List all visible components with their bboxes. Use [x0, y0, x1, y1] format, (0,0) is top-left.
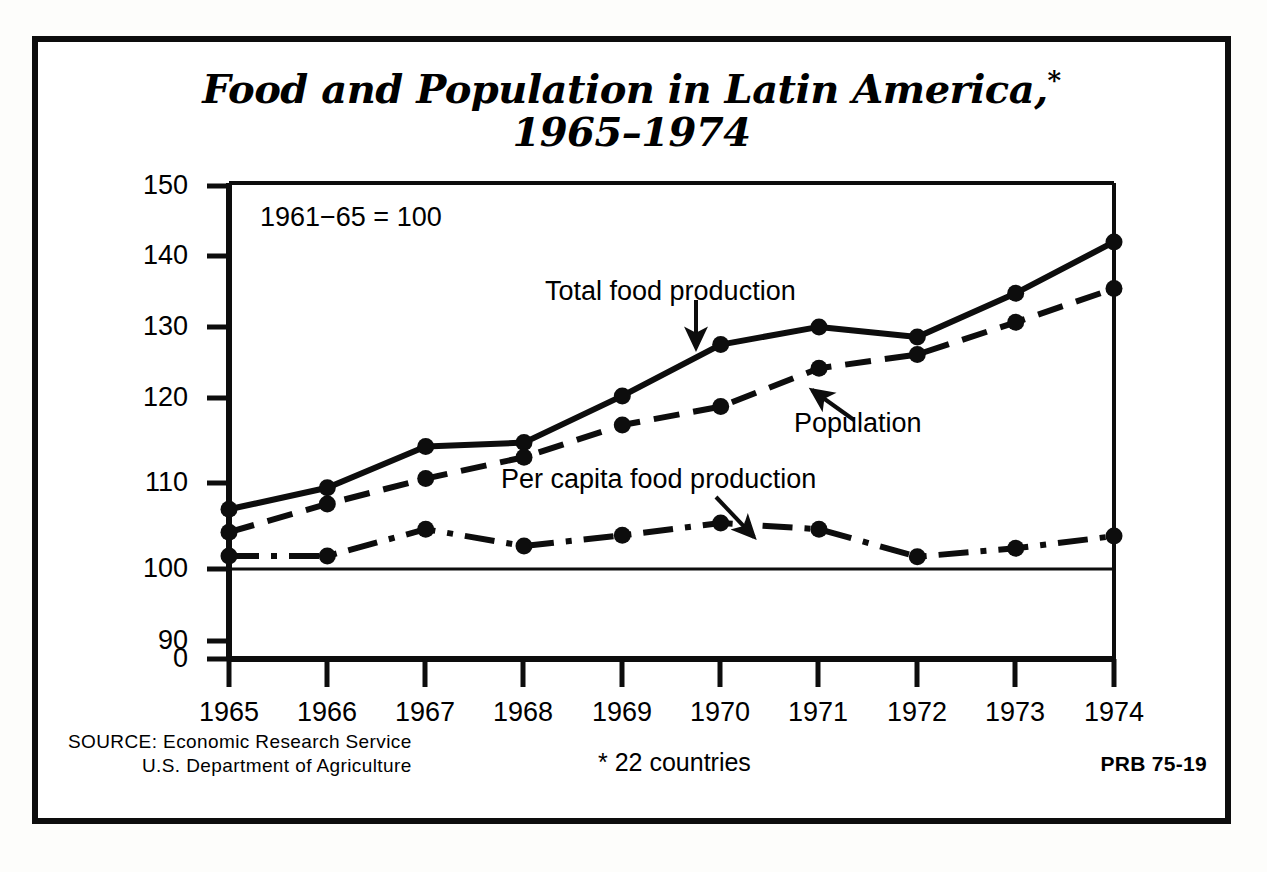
series-line	[229, 289, 1114, 533]
data-point-1967	[417, 470, 434, 487]
series-label-total-food-production: Total food production	[545, 276, 796, 307]
data-point-1972	[909, 328, 926, 345]
data-point-1970	[712, 398, 729, 415]
y-tick-label-130: 130	[100, 311, 188, 342]
y-tick-label-100: 100	[100, 553, 188, 584]
data-point-1971	[811, 318, 828, 335]
chart-frame-border: Food and Population in Latin America,* 1…	[32, 36, 1231, 824]
data-point-1965	[221, 548, 238, 565]
chart-footer: SOURCE: Economic Research Service U.S. D…	[38, 730, 1237, 800]
data-point-1974	[1106, 233, 1123, 250]
figure-canvas: Food and Population in Latin America,* 1…	[0, 0, 1267, 872]
data-point-1974	[1106, 528, 1123, 545]
y-tick-label-0: 0	[100, 643, 188, 674]
series-label-per-capita-food-production: Per capita food production	[501, 464, 816, 495]
series-population	[221, 280, 1123, 541]
data-point-1973	[1007, 540, 1024, 557]
data-point-1969	[614, 387, 631, 404]
data-point-1969	[614, 527, 631, 544]
y-tick-label-140: 140	[100, 240, 188, 271]
y-tick-label-110: 110	[100, 467, 188, 498]
publication-code: PRB 75-19	[1100, 752, 1207, 776]
source-line-2: U.S. Department of Agriculture	[68, 754, 412, 778]
source-line-1: Economic Research Service	[157, 731, 411, 752]
data-point-1966	[319, 495, 336, 512]
index-base-note: 1961−65 = 100	[260, 202, 442, 233]
data-point-1972	[909, 346, 926, 363]
data-point-1965	[221, 524, 238, 541]
footnote-countries: * 22 countries	[598, 748, 751, 777]
source-credit: SOURCE: Economic Research Service U.S. D…	[68, 730, 412, 778]
y-tick-label-150: 150	[100, 170, 188, 201]
data-point-1965	[221, 501, 238, 518]
x-axis-ticks	[229, 659, 1114, 687]
x-tick-label-1974: 1974	[1054, 697, 1174, 728]
data-point-1968	[516, 538, 533, 555]
data-point-1973	[1007, 314, 1024, 331]
data-point-1972	[909, 548, 926, 565]
data-point-1967	[417, 438, 434, 455]
chart-axes	[229, 183, 1114, 659]
data-point-1974	[1106, 280, 1123, 297]
data-point-1969	[614, 417, 631, 434]
series-line	[229, 523, 1114, 557]
series-label-population: Population	[794, 408, 922, 439]
data-point-1967	[417, 521, 434, 538]
data-point-1971	[811, 521, 828, 538]
data-point-1973	[1007, 285, 1024, 302]
plot-area: 150 140 130 120 110 100 90 0 1965 1966 1…	[38, 42, 1237, 830]
data-point-1970	[712, 515, 729, 532]
series-per-capita-food-production	[221, 515, 1123, 566]
data-point-1970	[712, 336, 729, 353]
source-label: SOURCE:	[68, 731, 157, 752]
y-tick-label-120: 120	[100, 382, 188, 413]
data-point-1966	[319, 548, 336, 565]
y-axis-ticks	[207, 186, 229, 659]
data-point-1971	[811, 360, 828, 377]
data-point-1968	[516, 434, 533, 451]
data-point-1966	[319, 479, 336, 496]
